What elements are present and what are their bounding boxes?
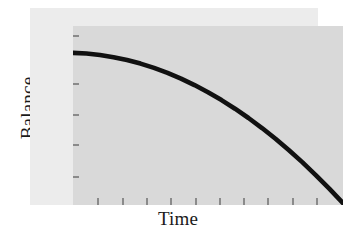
plot-area	[73, 26, 343, 205]
x-axis-title: Time	[43, 208, 313, 230]
balance-curve	[73, 26, 343, 205]
balance-curve-path	[73, 53, 343, 203]
x-axis-tick	[122, 198, 124, 205]
x-axis-tick	[267, 198, 269, 205]
x-axis-tick	[316, 198, 318, 205]
x-axis-tick	[292, 198, 294, 205]
x-axis-tick	[243, 198, 245, 205]
y-axis-tick	[73, 144, 79, 146]
x-axis-tick	[170, 198, 172, 205]
x-axis-tick	[146, 198, 148, 205]
y-axis-tick	[73, 176, 79, 178]
x-axis-tick	[97, 198, 99, 205]
x-axis-tick	[219, 198, 221, 205]
plot-frame	[30, 8, 318, 205]
y-axis-tick	[73, 114, 79, 116]
x-axis-tick	[195, 198, 197, 205]
y-axis-tick	[73, 35, 79, 37]
y-axis-tick	[73, 83, 79, 85]
